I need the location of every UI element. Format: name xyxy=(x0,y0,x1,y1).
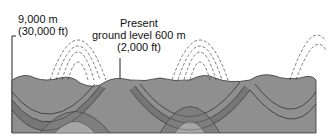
ground-label-line2: ground level 600 m xyxy=(92,29,186,41)
height-label-ft: (30,000 ft) xyxy=(18,25,68,37)
height-label-m: 9,000 m xyxy=(18,13,58,25)
cross-section-diagram: 9,000 m (30,000 ft) Present ground level… xyxy=(0,0,328,140)
ground-label-line1: Present xyxy=(120,17,158,29)
ground-label-line3: (2,000 ft) xyxy=(117,41,161,53)
